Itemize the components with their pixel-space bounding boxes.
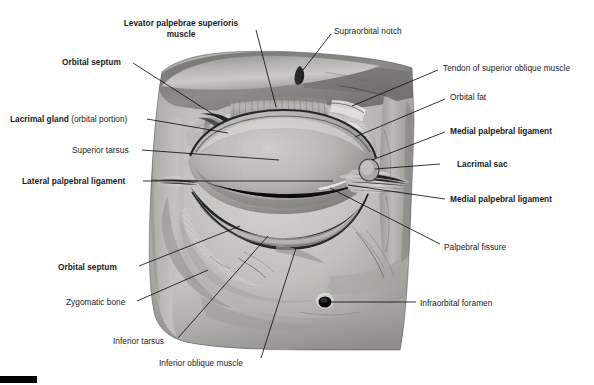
- label-lacrimal-gland-orbital-portion: Lacrimal gland (orbital portion): [10, 114, 127, 124]
- label-superior-tarsus: Superior tarsus: [72, 145, 129, 155]
- label-lacrimal-gland-main: Lacrimal gland: [10, 114, 69, 124]
- label-levator-palpebrae-superioris-muscle: Levator palpebrae superioris muscle: [108, 18, 254, 39]
- label-line-2: muscle: [167, 29, 196, 39]
- label-inferior-tarsus: Inferior tarsus: [113, 336, 164, 346]
- corner-marker-bar: [0, 376, 37, 383]
- anatomy-figure: Levator palpebrae superioris muscle Supr…: [0, 0, 594, 385]
- label-palpebral-fissure: Palpebral fissure: [444, 242, 506, 252]
- label-zygomatic-bone: Zygomatic bone: [66, 297, 125, 307]
- label-medial-palpebral-ligament-lower: Medial palpebral ligament: [450, 194, 552, 204]
- label-medial-palpebral-ligament-upper: Medial palpebral ligament: [450, 126, 552, 136]
- label-lacrimal-sac: Lacrimal sac: [457, 159, 508, 169]
- specimen-body: [140, 40, 430, 360]
- label-orbital-septum-inferior: Orbital septum: [58, 262, 117, 272]
- label-orbital-fat: Orbital fat: [450, 92, 486, 102]
- label-line-1: Levator palpebrae superioris: [124, 18, 238, 28]
- label-orbital-septum-superior: Orbital septum: [62, 57, 121, 67]
- label-inferior-oblique-muscle: Inferior oblique muscle: [159, 358, 243, 368]
- label-tendon-of-superior-oblique-muscle: Tendon of superior oblique muscle: [443, 63, 570, 73]
- label-infraorbital-foramen: Infraorbital foramen: [420, 298, 492, 308]
- label-supraorbital-notch: Supraorbital notch: [334, 26, 402, 36]
- label-lacrimal-gland-qualifier: (orbital portion): [69, 114, 127, 124]
- label-lateral-palpebral-ligament: Lateral palpebral ligament: [22, 176, 125, 186]
